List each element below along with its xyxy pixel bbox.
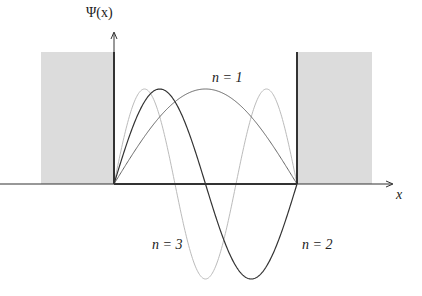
curve-label-n1: n = 1 [212, 70, 242, 86]
right-barrier-region [298, 52, 372, 184]
y-axis-label: Ψ(x) [86, 5, 113, 21]
wavefunction-n1-curve [114, 89, 297, 184]
square-well-diagram: Ψ(x) x n = 1 n = 2 n = 3 [0, 0, 422, 296]
wavefunction-plot [0, 0, 422, 296]
left-barrier-region [41, 52, 114, 184]
curve-label-n3: n = 3 [152, 237, 182, 253]
curve-label-n2: n = 2 [302, 237, 332, 253]
x-axis-label: x [396, 187, 402, 203]
